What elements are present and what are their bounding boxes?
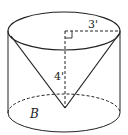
right-angle-marker [65,31,72,38]
cylinder-top-ellipse [8,12,120,50]
cylinder-bottom-front-edge [8,113,120,132]
cylinder-bottom-back-edge [8,94,120,113]
height-label: 4' [54,70,64,83]
cone-cylinder-diagram: 3' 4' B [0,0,128,135]
radius-label: 3' [88,18,98,31]
base-label: B [29,107,39,121]
